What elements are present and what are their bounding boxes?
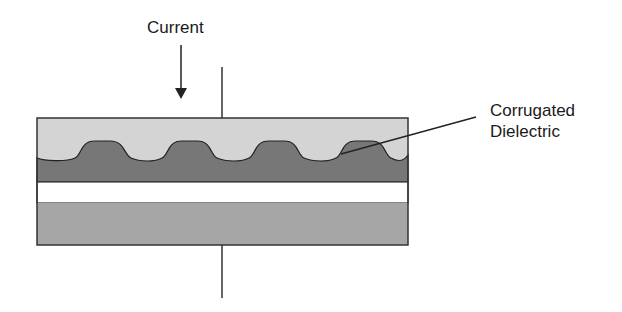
bottom-plate xyxy=(37,203,408,245)
gap-layer xyxy=(37,182,408,203)
dielectric-label-line1: Corrugated xyxy=(490,101,575,121)
capacitor-diagram xyxy=(0,0,622,312)
current-arrow-icon xyxy=(175,45,187,99)
dielectric-label-line2: Dielectric xyxy=(490,122,560,142)
current-label: Current xyxy=(147,18,204,38)
